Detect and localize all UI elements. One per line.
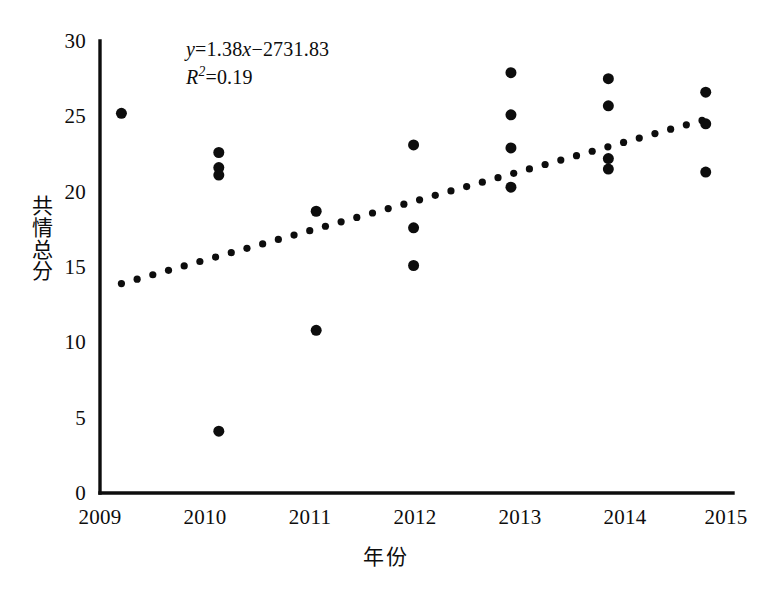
trendline-dot	[479, 179, 486, 186]
data-point	[408, 260, 419, 271]
x-tick-2012: 2012	[393, 505, 436, 530]
y-axis-title: 共情总分	[28, 196, 56, 283]
r-value: =0.19	[205, 65, 252, 87]
equation-line: y=1.38x−2731.83	[186, 36, 329, 63]
trendline-dot	[683, 121, 690, 128]
trendline-dot	[636, 134, 643, 141]
equation-body-prefix: =1.38	[195, 38, 242, 60]
trendline-dot	[463, 183, 470, 190]
trendline-dot	[416, 196, 423, 203]
data-point	[116, 108, 127, 119]
trendline-dot	[557, 156, 564, 163]
y-tick-30: 30	[44, 29, 86, 54]
trendline-dot	[322, 223, 329, 230]
data-point	[603, 153, 614, 164]
trendline-dot	[542, 161, 549, 168]
data-point	[700, 167, 711, 178]
trendline-dot	[290, 231, 297, 238]
y-tick-25: 25	[44, 104, 86, 129]
x-tick-2013: 2013	[498, 505, 541, 530]
trendline-dot	[181, 262, 188, 269]
r-symbol: R	[186, 65, 198, 87]
trendline-dot	[447, 187, 454, 194]
trendline-dot	[259, 240, 266, 247]
equation-y-var: y	[186, 38, 195, 60]
x-tick-2014: 2014	[603, 505, 646, 530]
x-tick-2011: 2011	[289, 505, 331, 530]
trendline-dot	[526, 165, 533, 172]
trendline-dot	[275, 236, 282, 243]
trendline-dot	[589, 148, 596, 155]
scatter-chart-figure: 30 25 20 15 10 5 0 2009 2010 2011 2012 2…	[0, 0, 771, 599]
data-point	[603, 73, 614, 84]
trendline-dot	[573, 152, 580, 159]
regression-equation-annotation: y=1.38x−2731.83 R2=0.19	[186, 36, 329, 90]
data-point	[311, 206, 322, 217]
data-point	[408, 222, 419, 233]
x-tick-2009: 2009	[78, 505, 121, 530]
trendline-dot	[165, 267, 172, 274]
y-tick-5: 5	[44, 406, 86, 431]
x-axis-title: 年份	[0, 540, 771, 570]
data-point	[311, 325, 322, 336]
data-point	[700, 118, 711, 129]
trendline-dot	[196, 258, 203, 265]
data-point	[505, 67, 516, 78]
r-squared-line: R2=0.19	[186, 63, 329, 90]
y-tick-10: 10	[44, 330, 86, 355]
trendline-dot	[510, 170, 517, 177]
y-tick-0: 0	[44, 481, 86, 506]
data-point	[213, 147, 224, 158]
data-point	[505, 182, 516, 193]
data-point	[700, 87, 711, 98]
trendline-dot	[306, 227, 313, 234]
trendline-dot	[338, 218, 345, 225]
trendline-dot	[212, 254, 219, 261]
data-point	[408, 139, 419, 150]
data-points-group	[116, 67, 711, 437]
trendline-dot	[134, 276, 141, 283]
trendline-dot	[369, 209, 376, 216]
trendline-dot	[400, 201, 407, 208]
data-point	[505, 142, 516, 153]
trendline-dot	[604, 143, 611, 150]
equation-body-suffix: −2731.83	[251, 38, 329, 60]
trendline-dot	[494, 174, 501, 181]
trendline-dot	[149, 271, 156, 278]
trendline-dot	[667, 126, 674, 133]
data-point	[505, 109, 516, 120]
trendline-dot	[118, 280, 125, 287]
trendline-dot	[432, 192, 439, 199]
trendline-dot	[353, 214, 360, 221]
trendline-dot	[651, 130, 658, 137]
x-tick-2010: 2010	[183, 505, 226, 530]
data-point	[213, 426, 224, 437]
x-tick-2015: 2015	[704, 505, 747, 530]
data-point	[213, 170, 224, 181]
trendline-dot	[243, 245, 250, 252]
trendline-dot	[228, 249, 235, 256]
trendline-dot	[620, 139, 627, 146]
data-point	[603, 164, 614, 175]
trendline-dot	[385, 205, 392, 212]
data-point	[603, 100, 614, 111]
